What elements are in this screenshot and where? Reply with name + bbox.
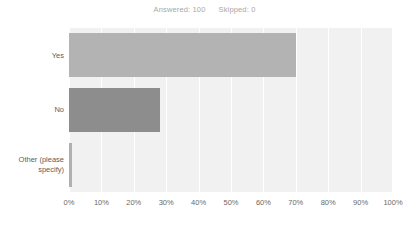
x-tick-20pct: 20% xyxy=(119,198,149,207)
x-tick-60pct: 60% xyxy=(248,198,278,207)
x-tick-90pct: 90% xyxy=(346,198,376,207)
gridline-70pct xyxy=(296,28,297,192)
x-tick-50pct: 50% xyxy=(216,198,246,207)
x-tick-10pct: 10% xyxy=(86,198,116,207)
y-axis-label-no: No xyxy=(2,105,64,115)
x-tick-0pct: 0% xyxy=(54,198,84,207)
x-tick-70pct: 70% xyxy=(281,198,311,207)
skipped-count: Skipped: 0 xyxy=(219,5,256,14)
y-axis-label-other: Other (please specify) xyxy=(2,155,64,174)
x-tick-100pct: 100% xyxy=(378,198,408,207)
x-tick-80pct: 80% xyxy=(313,198,343,207)
answered-count: Answered: 100 xyxy=(154,5,206,14)
bar-no[interactable] xyxy=(69,88,160,132)
gridline-90pct xyxy=(361,28,362,192)
gridline-100pct xyxy=(392,28,393,192)
chart-summary-header: Answered: 100Skipped: 0 xyxy=(0,5,409,14)
gridline-80pct xyxy=(328,28,329,192)
x-tick-40pct: 40% xyxy=(184,198,214,207)
bar-yes[interactable] xyxy=(69,33,296,77)
bar-other[interactable] xyxy=(69,143,72,187)
x-tick-30pct: 30% xyxy=(151,198,181,207)
y-axis-label-yes: Yes xyxy=(2,51,64,61)
x-axis-tick-labels: 0%10%20%30%40%50%60%70%80%90%100% xyxy=(0,198,409,212)
